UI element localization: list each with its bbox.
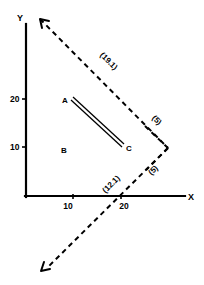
- lower-arrowhead-icon: [41, 262, 50, 271]
- segment-label-right-lower: (5): [147, 163, 161, 177]
- point-label-c: C: [126, 144, 132, 153]
- segment-ac-line-1: [71, 100, 122, 147]
- y-tick-label-20: 20: [10, 94, 20, 104]
- y-axis-label: Y: [17, 13, 23, 23]
- x-tick-label-10: 10: [63, 201, 73, 211]
- segment-label-axis-crossing: (12.1): [101, 173, 122, 194]
- segment-ac-line-2: [73, 97, 124, 144]
- x-axis-label: X: [188, 192, 194, 202]
- y-tick-label-10: 10: [10, 142, 20, 152]
- point-label-b: B: [61, 146, 67, 155]
- point-label-a: A: [62, 96, 68, 105]
- diagram-svg: Y X 20 10 10 20 A B C (19.1) (5) (5) (12…: [0, 0, 204, 285]
- x-tick-label-20: 20: [119, 201, 129, 211]
- segment-label-upper-dashed: (19.1): [98, 51, 119, 72]
- diagram-canvas: Y X 20 10 10 20 A B C (19.1) (5) (5) (12…: [0, 0, 204, 285]
- segment-label-right-upper: (5): [150, 114, 164, 128]
